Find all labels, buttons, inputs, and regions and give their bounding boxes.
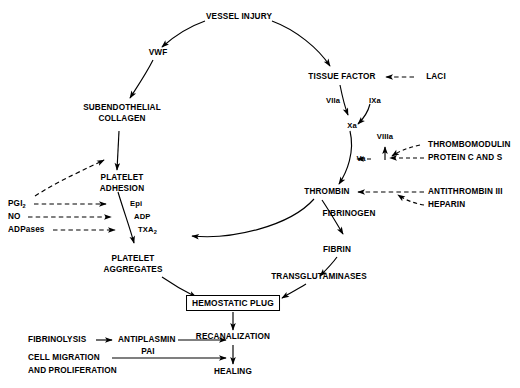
node-pgi2: PGI2: [8, 199, 26, 210]
node-platelet-adhesion: PLATELET ADHESION: [100, 173, 144, 194]
arrow-aggregates-to-plug: [162, 277, 196, 297]
node-antiplasmin: ANTIPLASMIN: [118, 335, 176, 346]
adhesion-line-1: PLATELET: [100, 173, 144, 184]
node-cell-proliferation: AND PROLIFERATION: [28, 366, 117, 377]
hemostasis-pathway-diagram: VESSEL INJURY VWF TISSUE FACTOR LACI VII…: [0, 0, 520, 388]
adhesion-line-2: ADHESION: [100, 183, 144, 194]
node-pai: PAI: [141, 347, 155, 358]
arrow-ixa-to-xa: [358, 104, 370, 124]
node-txa2: TXA2: [138, 225, 157, 236]
node-fibrin: FIBRIN: [323, 245, 351, 256]
node-protein-c-and-s: PROTEIN C AND S: [428, 153, 502, 164]
node-no: NO: [8, 212, 21, 223]
node-adpases: ADPases: [8, 225, 45, 236]
node-viiia: VIIIa: [377, 132, 393, 143]
collagen-line-2: COLLAGEN: [83, 113, 161, 124]
node-laci: LACI: [426, 72, 446, 83]
collagen-line-1: SUBENDOTHELIAL: [83, 103, 161, 114]
node-epi: Epi: [130, 199, 142, 210]
arrow-collagen-to-adhesion: [117, 131, 119, 170]
arrow-pgi2-to-collagen: [35, 160, 104, 196]
node-vwf: VWF: [149, 48, 168, 59]
node-xa: Xa: [347, 121, 357, 132]
arrow-heparin-to-thrombin: [398, 195, 424, 205]
node-subendothelial-collagen: SUBENDOTHELIAL COLLAGEN: [83, 103, 161, 124]
node-healing: HEALING: [214, 367, 252, 378]
arrow-vessel-injury-to-vwf: [162, 21, 205, 47]
txa2-subscript: 2: [154, 228, 157, 234]
arrow-tissue-factor-to-xa: [340, 85, 348, 115]
node-cell-migration: CELL MIGRATION: [28, 353, 100, 364]
arrow-vwf-to-collagen: [130, 60, 153, 98]
aggregates-line-1: PLATELET: [103, 254, 162, 265]
arrow-thrombomodulin-to-va: [392, 145, 420, 156]
node-tissue-factor: TISSUE FACTOR: [308, 72, 375, 83]
arrow-transglutaminases-to-plug: [282, 284, 306, 298]
txa2-base: TXA: [138, 225, 154, 234]
node-ixa: IXa: [369, 96, 381, 107]
node-heparin: HEPARIN: [428, 200, 465, 211]
node-va: Va: [356, 154, 365, 165]
node-fibrinogen: FIBRINOGEN: [323, 209, 376, 220]
arrow-vessel-injury-to-tissue-factor: [272, 21, 330, 66]
node-recanalization: RECANALIZATION: [196, 332, 270, 343]
pgi2-subscript: 2: [23, 202, 26, 208]
node-hemostatic-plug: HEMOSTATIC PLUG: [186, 295, 280, 311]
arrow-thrombin-to-aggregates: [192, 199, 314, 237]
node-adp: ADP: [134, 212, 150, 223]
node-platelet-aggregates: PLATELET AGGREGATES: [103, 254, 162, 275]
node-antithrombin-iii: ANTITHROMBIN III: [428, 187, 503, 198]
node-viia: VIIa: [326, 96, 340, 107]
arrow-xa-to-thrombin: [339, 131, 352, 184]
node-vessel-injury: VESSEL INJURY: [206, 12, 272, 23]
pgi2-base: PGI: [8, 199, 23, 208]
node-fibrinolysis: FIBRINOLYSIS: [28, 335, 86, 346]
node-transglutaminases: TRANSGLUTAMINASES: [271, 272, 367, 283]
node-thrombin: THROMBIN: [304, 187, 349, 198]
aggregates-line-2: AGGREGATES: [103, 264, 162, 275]
node-thrombomodulin: THROMBOMODULIN: [428, 140, 511, 151]
